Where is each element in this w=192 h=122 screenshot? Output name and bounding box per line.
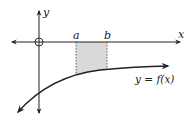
- y-axis-label: y: [42, 6, 50, 19]
- integral-diagram: y x a b y = f(x): [0, 0, 192, 122]
- interval-label-b: b: [104, 29, 111, 42]
- interval-label-a: a: [73, 29, 80, 42]
- curve-label: y = f(x): [134, 73, 174, 85]
- x-axis-label: x: [178, 28, 185, 41]
- diagram-canvas: y x a b y = f(x): [0, 0, 192, 122]
